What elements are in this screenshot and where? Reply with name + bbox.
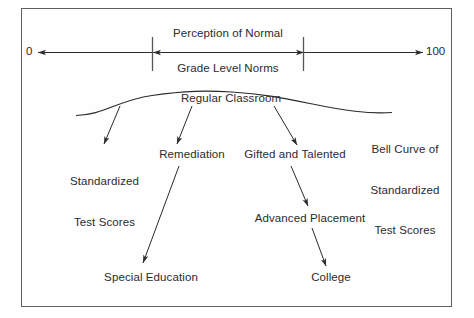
- node-standardized-test-scores-line-2: Test Scores: [59, 216, 150, 230]
- node-standardized-test-scores: Standardized Test Scores: [59, 148, 150, 256]
- bell-curve-caption-line-3: Test Scores: [362, 224, 448, 238]
- diagram-canvas: 0 100 Perception of Normal Grade Level N…: [0, 0, 474, 318]
- scale-left-value: 0: [26, 45, 32, 58]
- bell-curve-caption: Bell Curve of Standardized Test Scores: [362, 116, 448, 265]
- node-standardized-test-scores-line-1: Standardized: [59, 175, 150, 189]
- perception-of-normal-label: Perception of Normal: [173, 27, 283, 41]
- node-gifted-and-talented: Gifted and Talented: [244, 148, 345, 162]
- scale-right-value: 100: [426, 45, 445, 58]
- node-college: College: [311, 271, 351, 285]
- grade-level-norms-label: Grade Level Norms: [177, 62, 278, 76]
- bell-curve-caption-line-1: Bell Curve of: [362, 143, 448, 157]
- node-remediation: Remediation: [159, 148, 225, 162]
- node-regular-classroom: Regular Classroom: [181, 92, 281, 106]
- node-advanced-placement: Advanced Placement: [255, 212, 365, 226]
- node-special-education: Special Education: [104, 271, 198, 285]
- bell-curve-caption-line-2: Standardized: [362, 184, 448, 198]
